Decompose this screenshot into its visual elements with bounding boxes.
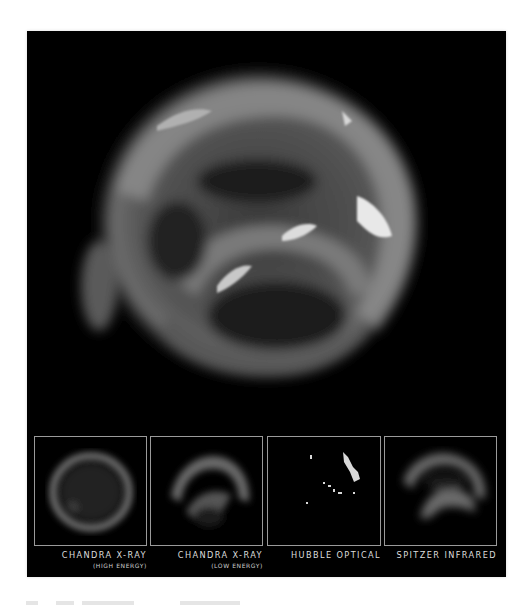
panel-title: CHANDRA X-RAY [62,550,147,560]
panel-title: HUBBLE OPTICAL [291,550,381,560]
panel-subtitle: (HIGH ENERGY) [62,561,147,571]
label-spitzer-infrared: SPITZER INFRARED [397,550,497,560]
main-composite-image [27,31,506,431]
label-chandra-low-energy: CHANDRA X-RAY (LOW ENERGY) [178,550,263,571]
cut-off-caption [20,601,320,605]
thumbnail-chandra-high-energy [34,436,147,546]
panel-subtitle: (LOW ENERGY) [178,561,263,571]
thumbnail-spitzer-infrared [384,436,497,546]
label-chandra-high-energy: CHANDRA X-RAY (HIGH ENERGY) [62,550,147,571]
thumbnail-chandra-low-energy [150,436,263,546]
panel-title: CHANDRA X-RAY [178,550,263,560]
composite-figure: CHANDRA X-RAY (HIGH ENERGY) CHANDRA X-RA… [27,31,506,577]
panel-title: SPITZER INFRARED [397,550,497,560]
label-hubble-optical: HUBBLE OPTICAL [291,550,381,560]
thumbnail-hubble-optical [267,436,381,546]
